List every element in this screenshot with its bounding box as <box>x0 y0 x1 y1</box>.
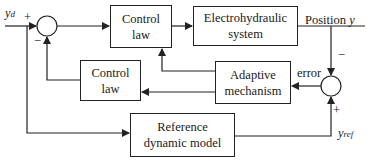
sum1-plus-sign: + <box>24 10 31 24</box>
control-law-block: Control law <box>110 5 172 48</box>
sum1-minus-sign: − <box>34 34 41 48</box>
input-label: yd <box>5 6 15 21</box>
feedback-control-law-block: Control law <box>80 60 141 101</box>
output-label: Position y <box>305 13 355 27</box>
sum2-plus-sign: + <box>333 103 340 117</box>
adaptive-mechanism-block: Adaptive mechanism <box>215 61 291 104</box>
summing-junction-1 <box>37 16 57 36</box>
reference-model-block: Reference dynamic model <box>130 113 235 157</box>
summing-junction-2 <box>321 76 341 96</box>
sum2-minus-sign: − <box>338 48 345 62</box>
error-label: error <box>297 66 321 80</box>
reference-output-label: yref <box>338 126 353 141</box>
electrohydraulic-system-block: Electrohydraulic system <box>193 6 298 46</box>
